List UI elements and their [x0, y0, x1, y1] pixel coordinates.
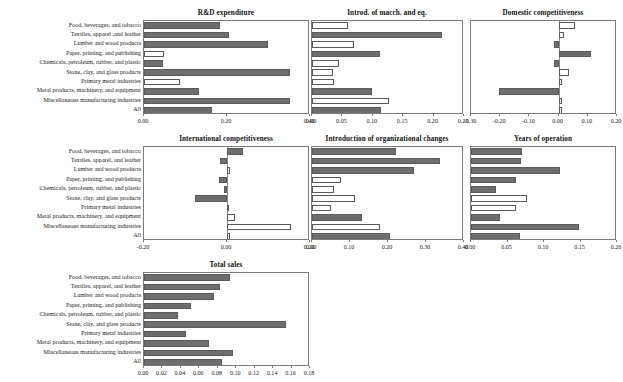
bar [312, 107, 381, 114]
value-axis-ticks: 0.000.050.100.150.200.25 [311, 114, 463, 128]
category-axis-labels: Food, beverages, and tobaccoTextiles, ap… [0, 272, 141, 366]
tick-mark [143, 114, 144, 116]
category-label: Primary metal industries [81, 204, 141, 210]
value-axis-ticks: 0.000.200.40 [143, 114, 309, 128]
tick-mark [387, 240, 388, 242]
plot-frame [311, 146, 463, 240]
bar [471, 186, 496, 193]
bar [554, 60, 559, 67]
tick-mark [470, 114, 471, 116]
bar [144, 293, 214, 300]
plot-area-organizational-changes [311, 146, 463, 240]
category-label: Textiles, apparel, and leather [71, 157, 141, 163]
tick-label: 0.20 [611, 244, 622, 250]
category-label: Paper, printing, and publishing [66, 50, 141, 56]
bar [312, 195, 355, 202]
category-label: Chemicals, petroleum, rubber, and plasti… [40, 311, 141, 317]
tick-label: 0.08 [211, 370, 222, 376]
bar [312, 205, 331, 212]
category-label: Food, beverages, and tobacco [69, 22, 141, 28]
bar [144, 350, 233, 357]
category-label: Miscellaneous manufacturing industries [44, 97, 141, 103]
bar [144, 32, 229, 39]
tick-label: 0.00 [138, 370, 149, 376]
bar [227, 214, 235, 221]
bar [554, 41, 559, 48]
tick-label: 0.20 [382, 244, 393, 250]
bar [471, 205, 516, 212]
tick-label: 0.00 [552, 118, 563, 124]
category-label: Textiles, apparel ,and leather [71, 31, 141, 37]
bar [471, 224, 579, 231]
tick-mark [180, 366, 181, 368]
bar [144, 79, 180, 86]
tick-label: 0.15 [574, 244, 585, 250]
bar [312, 158, 440, 165]
bar [312, 60, 339, 67]
tick-mark [226, 240, 227, 242]
bar [471, 233, 520, 240]
tick-mark [161, 366, 162, 368]
bar [144, 88, 199, 95]
tick-mark [499, 114, 500, 116]
bar [144, 41, 268, 48]
tick-mark [254, 366, 255, 368]
tick-mark [463, 240, 464, 242]
chart-title: Domestic competitiveness [468, 9, 618, 17]
category-label: Primary metal industries [81, 330, 141, 336]
bar [144, 284, 220, 291]
tick-mark [587, 114, 588, 116]
plot-area-introd-macch-eq [311, 20, 463, 114]
bar [312, 51, 380, 58]
bar [144, 69, 290, 76]
bar [559, 22, 575, 29]
tick-label: 0.10 [230, 370, 241, 376]
bar [224, 186, 227, 193]
bar [144, 321, 286, 328]
category-label: Stone, clay, and glass products [66, 195, 141, 201]
category-label: Primary metal industries [81, 78, 141, 84]
value-axis-ticks: 0.000.050.100.150.20 [470, 240, 616, 254]
tick-label: 0.10 [344, 244, 355, 250]
bar [312, 148, 396, 155]
tick-label: 0.14 [267, 370, 278, 376]
tick-mark [425, 240, 426, 242]
bar [227, 233, 230, 240]
tick-mark [580, 240, 581, 242]
tick-mark [558, 114, 559, 116]
value-axis-ticks: 0.000.100.200.300.40 [311, 240, 463, 254]
bar [312, 224, 380, 231]
bar [471, 158, 521, 165]
tick-mark [291, 366, 292, 368]
bar [312, 167, 414, 174]
bar [144, 60, 163, 67]
bar [471, 195, 527, 202]
tick-label: 0.00 [306, 118, 317, 124]
category-label: Stone, clay, and glass products [66, 69, 141, 75]
bar [144, 303, 191, 310]
tick-label: 0.20 [427, 118, 438, 124]
bar [471, 214, 500, 221]
tick-label: 0.12 [248, 370, 259, 376]
category-label: Stone, clay, and glass products [66, 321, 141, 327]
tick-mark [543, 240, 544, 242]
category-label: Paper, printing, and publishing [66, 176, 141, 182]
category-label: All [133, 106, 141, 112]
tick-label: 0.06 [193, 370, 204, 376]
plot-area-rd-expenditure [143, 20, 309, 114]
bar [559, 98, 562, 105]
bar [499, 88, 559, 95]
tick-mark [402, 114, 403, 116]
tick-mark [341, 114, 342, 116]
plot-frame [311, 20, 463, 114]
figure-canvas: R&D expenditureFood, beverages, and toba… [0, 0, 623, 382]
bar [144, 312, 178, 319]
bar [227, 205, 229, 212]
tick-label: 0.00 [138, 118, 149, 124]
bar [144, 98, 290, 105]
bar [559, 79, 562, 86]
chart-title: Introd. of macch. and eq. [309, 9, 465, 17]
bar [312, 69, 333, 76]
bar [195, 195, 227, 202]
plot-area-total-sales [143, 272, 309, 366]
